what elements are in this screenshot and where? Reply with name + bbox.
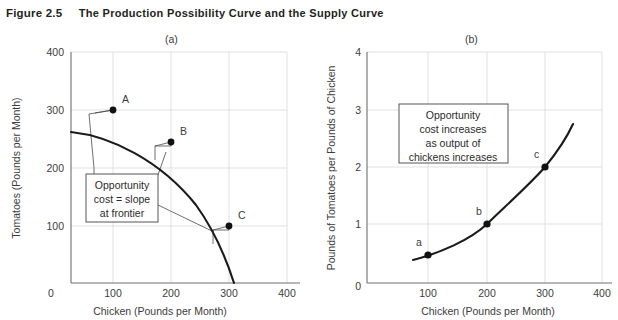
annotation-line: chickens increases (409, 151, 498, 163)
data-point-A (110, 107, 117, 114)
chart-b-x-tick-labels: 100 200 300 400 (419, 287, 611, 299)
x-tick-label: 300 (536, 287, 554, 299)
y-tick-label: 100 (46, 220, 64, 232)
data-point-a (424, 251, 431, 258)
data-point-C (226, 223, 233, 230)
y-tick-label: 2 (355, 161, 361, 173)
annotation-line: Opportunity (95, 179, 150, 191)
chart-b-y-tick-labels: 4 3 2 1 0 (355, 46, 361, 292)
data-point-label-B: B (180, 125, 187, 137)
chart-b-gridlines (367, 52, 602, 283)
chart-a-axes (71, 52, 300, 283)
data-point-label-a: a (416, 236, 422, 248)
data-point-c (541, 163, 548, 170)
chart-b-y-axis-label: Pounds of Tomatoes per Pounds of Chicken (325, 66, 337, 271)
chart-a-y-tick-labels: 400 300 200 100 (46, 46, 64, 232)
x-tick-label: 100 (104, 287, 122, 299)
chart-panel-a: (a) 400 300 200 (0, 0, 320, 320)
chart-b-svg: 4 3 2 1 0 100 200 300 400 Chicken (Pound… (320, 0, 618, 320)
annotation-line: Opportunity (426, 109, 481, 121)
x-tick-label: 300 (220, 287, 238, 299)
data-point-label-b: b (476, 205, 482, 217)
data-point-B (168, 139, 175, 146)
y-tick-label: 3 (355, 104, 361, 116)
chart-b-annotation: Opportunity cost increases as output of … (399, 104, 508, 163)
data-point-label-A: A (122, 93, 129, 105)
x-tick-label: 400 (278, 287, 296, 299)
chart-a-x-axis-label: Chicken (Pounds per Month) (93, 305, 227, 317)
chart-a-y-axis-label: Tomatoes (Pounds per Month) (10, 97, 22, 238)
x-tick-label: 100 (419, 287, 437, 299)
x-tick-label: 200 (478, 287, 496, 299)
annotation-line: as output of (426, 137, 481, 149)
chart-b-data-points: a b c (416, 148, 549, 259)
y-tick-label: 0 (355, 280, 361, 292)
chart-b-axes (367, 52, 612, 283)
data-point-label-c: c (534, 148, 539, 160)
y-tick-label: 200 (46, 162, 64, 174)
x-tick-label: 400 (593, 287, 611, 299)
chart-b-x-axis-label: Chicken (Pounds per Month) (421, 305, 555, 317)
y-tick-label: 1 (355, 218, 361, 230)
chart-a-svg: 400 300 200 100 0 100 200 300 400 Chicke… (0, 0, 320, 320)
x-tick-label: 0 (48, 287, 54, 299)
annotation-line: at frontier (100, 207, 145, 219)
chart-a-gridlines (71, 52, 287, 283)
x-tick-label: 200 (162, 287, 180, 299)
y-tick-label: 300 (46, 104, 64, 116)
chart-panel-b: (b) 4 3 2 1 (320, 0, 618, 320)
annotation-line: cost = slope (94, 193, 150, 205)
data-point-label-C: C (238, 209, 246, 221)
y-tick-label: 4 (355, 46, 361, 58)
y-tick-label: 400 (46, 46, 64, 58)
figure-container: Figure 2.5 The Production Possibility Cu… (0, 0, 618, 320)
chart-a-annotation: Opportunity cost = slope at frontier (86, 174, 158, 222)
annotation-line: cost increases (419, 123, 486, 135)
chart-a-x-tick-labels: 0 100 200 300 400 (48, 287, 296, 299)
data-point-b (483, 220, 490, 227)
